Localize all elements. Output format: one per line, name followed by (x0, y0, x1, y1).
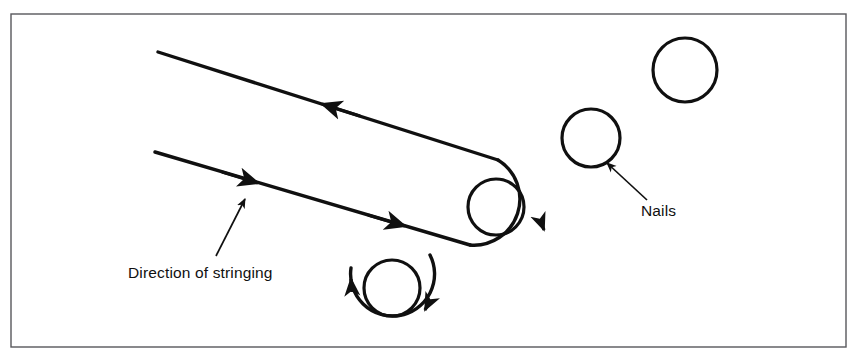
string-wrap-right-nail-arrow (541, 222, 544, 230)
string-lower-run-arrow-1 (222, 172, 258, 183)
nail-middle-right (562, 109, 620, 167)
direction-of-stringing-label: Direction of stringing (128, 264, 273, 281)
nails-leader-line (607, 163, 647, 200)
direction-leader-line (216, 199, 245, 256)
nail-top-right (653, 38, 717, 102)
nails-label: Nails (641, 202, 676, 219)
figure-root: Direction of stringing Nails (0, 0, 859, 361)
nail-string-wrapped-right (468, 179, 524, 235)
stringing-diagram: Direction of stringing Nails (0, 0, 859, 361)
string-lower-run (155, 152, 470, 245)
string-wrap-right-nail (470, 160, 520, 245)
string-lower-run-arrow-2 (368, 215, 405, 226)
string-loop-arrow-left (351, 279, 352, 292)
string-upper-run-arrow (322, 104, 360, 116)
nail-string-wrapped-lower-left (364, 260, 420, 316)
